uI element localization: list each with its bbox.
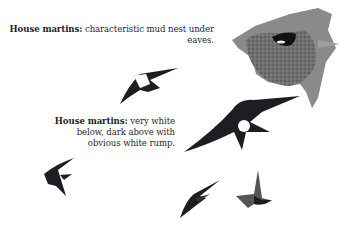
illustration-canvas	[0, 0, 348, 241]
house-martin-bird-left	[44, 158, 74, 196]
house-martin-bird-large	[184, 96, 300, 152]
house-martin-bird-gliding	[236, 170, 272, 208]
house-martin-bird-upper	[120, 68, 178, 104]
mud-nest-illustration	[232, 8, 340, 108]
house-martin-bird-lower-center	[180, 180, 220, 218]
